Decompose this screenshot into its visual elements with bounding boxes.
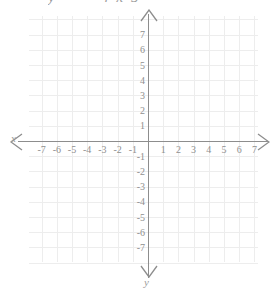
- x-axis-tick-label: -3: [94, 144, 110, 155]
- x-axis-tick-label: 6: [231, 144, 247, 155]
- y-axis-line: [148, 14, 149, 278]
- gridline-vertical: [194, 16, 195, 262]
- gridline-vertical: [57, 16, 58, 262]
- x-axis-tick-label: -5: [64, 144, 80, 155]
- x-axis-tick-label: 2: [170, 144, 186, 155]
- gridline-vertical: [178, 16, 179, 262]
- gridline-vertical: [87, 16, 88, 262]
- y-axis-tick-label: -1: [129, 151, 145, 162]
- y-axis-tick-label: 7: [129, 29, 145, 40]
- x-axis-tick-label: -7: [34, 144, 50, 155]
- y-axis-tick-label: 5: [129, 60, 145, 71]
- gridline-vertical: [224, 16, 225, 262]
- x-axis-tick-label: -2: [110, 144, 126, 155]
- x-axis-tick-label: 7: [246, 144, 262, 155]
- x-axis-tick-label: 5: [216, 144, 232, 155]
- y-axis-tick-label: 1: [129, 120, 145, 131]
- gridline-vertical: [72, 16, 73, 262]
- y-axis-tick-label: -6: [129, 227, 145, 238]
- x-axis-label: x: [11, 132, 16, 144]
- y-axis-tick-label: -2: [129, 166, 145, 177]
- y-axis-tick-label: -5: [129, 212, 145, 223]
- y-axis-label: y: [144, 276, 149, 288]
- x-axis-tick-label: 1: [155, 144, 171, 155]
- gridline-vertical: [42, 16, 43, 262]
- y-axis-tick-label: 2: [129, 105, 145, 116]
- y-axis-top-arrowhead-icon: [140, 9, 158, 23]
- y-axis-tick-label: -3: [129, 181, 145, 192]
- gridline-vertical: [163, 16, 164, 262]
- equation-fragment-text: y = — 4 x 5: [48, 0, 188, 5]
- gridline-vertical: [118, 16, 119, 262]
- gridline-vertical: [239, 16, 240, 262]
- y-axis-tick-label: 4: [129, 75, 145, 86]
- x-axis-tick-label: -4: [79, 144, 95, 155]
- y-axis-tick-label: -7: [129, 242, 145, 253]
- coordinate-plane-screenshot: y = — 4 x 5 x y -7-6-5-4-3-2-11234567765…: [0, 0, 277, 292]
- gridline-vertical: [102, 16, 103, 262]
- x-axis-line: [18, 141, 268, 142]
- y-axis-tick-label: 3: [129, 90, 145, 101]
- x-axis-tick-label: 3: [186, 144, 202, 155]
- y-axis-tick-label: -4: [129, 196, 145, 207]
- x-axis-tick-label: 4: [201, 144, 217, 155]
- x-axis-tick-label: -6: [49, 144, 65, 155]
- y-axis-tick-label: 6: [129, 44, 145, 55]
- y-axis-bottom-arrowhead-icon: [140, 264, 158, 278]
- gridline-vertical: [209, 16, 210, 262]
